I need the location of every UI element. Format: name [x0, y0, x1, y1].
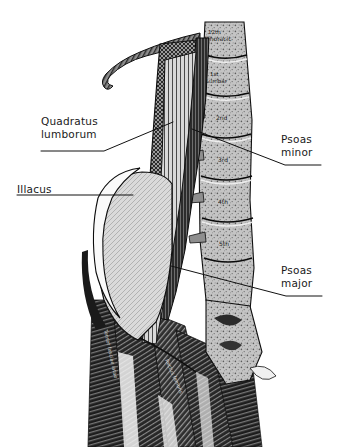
inscription-l3: 3rd — [218, 156, 228, 163]
label-psoas-minor-line2: minor — [281, 146, 313, 159]
illustration-canvas: Tensor fasciae latae Rectus femoris — [0, 0, 341, 447]
inscription-l5: 5th — [219, 240, 229, 247]
inscription-l1: 1st — [210, 71, 219, 77]
label-quadratus-lumborum: Quadratus lumborum — [41, 115, 98, 140]
label-psoas-major-line1: Psoas — [281, 264, 312, 277]
anatomy-figure: Tensor fasciae latae Rectus femoris — [0, 0, 341, 447]
inscription-l4: 4th — [218, 198, 228, 205]
label-psoas-major: Psoas major — [281, 264, 312, 289]
label-psoas-major-line2: major — [281, 277, 312, 290]
inscription-l2: 2nd — [216, 114, 228, 121]
label-illacus: Illacus — [17, 183, 52, 196]
label-psoas-minor: Psoas minor — [281, 133, 313, 158]
label-illacus-line1: Illacus — [17, 183, 52, 196]
label-quadratus-lumborum-line2: lumborum — [41, 128, 98, 141]
inscription-lumbar: Lumbar — [206, 78, 228, 84]
label-psoas-minor-line1: Psoas — [281, 133, 313, 146]
label-quadratus-lumborum-line1: Quadratus — [41, 115, 98, 128]
